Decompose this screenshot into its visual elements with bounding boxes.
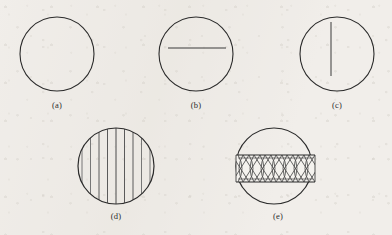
figure-caption-c: (c) xyxy=(317,100,357,110)
panel-e-drawing xyxy=(0,110,392,235)
figure-panel-e xyxy=(0,110,392,235)
panel-c-drawing xyxy=(0,0,392,110)
figure-panel-c xyxy=(0,0,392,110)
band-fill-e xyxy=(236,155,315,182)
figure-caption-e: (e) xyxy=(258,211,298,221)
circle-outline-c xyxy=(300,17,374,91)
figure-page: (a) (b) (c) xyxy=(0,0,392,235)
